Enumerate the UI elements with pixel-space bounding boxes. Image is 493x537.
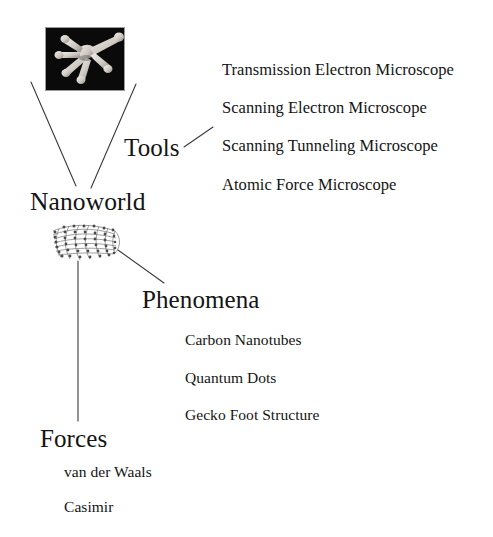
gecko-foot-micrograph <box>45 27 125 91</box>
connector-nanotube-to-phenomena <box>118 250 164 283</box>
gecko-foot-icon <box>46 28 124 90</box>
tools-item-atomic-force-microscope: Atomic Force Microscope <box>222 177 396 194</box>
connector-gecko-left <box>31 82 76 186</box>
carbon-nanotube-icon <box>49 217 123 264</box>
tools-item-scanning-tunneling-microscope: Scanning Tunneling Microscope <box>222 138 438 155</box>
branch-title-forces: Forces <box>40 426 107 451</box>
phenomena-item-quantum-dots: Quantum Dots <box>185 370 276 386</box>
branch-title-tools: Tools <box>124 135 180 160</box>
forces-item-casimir: Casimir <box>64 499 113 515</box>
tools-item-transmission-electron-microscope: Transmission Electron Microscope <box>222 62 454 79</box>
carbon-nanotube-model <box>49 217 123 264</box>
branch-title-phenomena: Phenomena <box>142 287 260 312</box>
forces-item-van-der-waals: van der Waals <box>64 464 152 480</box>
connector-tools-to-items <box>184 127 213 147</box>
diagram-canvas: Nanoworld Tools Transmission Electron Mi… <box>0 0 493 537</box>
tools-item-scanning-electron-microscope: Scanning Electron Microscope <box>222 100 427 117</box>
root-node-nanoworld: Nanoworld <box>30 189 146 215</box>
phenomena-item-gecko-foot-structure: Gecko Foot Structure <box>185 407 319 423</box>
phenomena-item-carbon-nanotubes: Carbon Nanotubes <box>185 332 302 348</box>
